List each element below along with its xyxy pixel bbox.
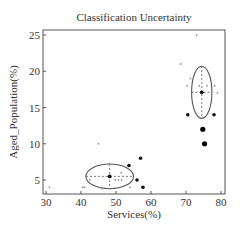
- data-point: [200, 127, 205, 132]
- data-point: [190, 78, 192, 80]
- x-tick-label: 70: [181, 196, 193, 208]
- y-tick-label: 10: [29, 138, 41, 150]
- data-point: [121, 179, 123, 181]
- data-point: [98, 143, 100, 145]
- data-point: [84, 186, 86, 188]
- data-point: [120, 172, 122, 174]
- x-tick-label: 80: [216, 196, 228, 208]
- data-point: [186, 85, 188, 87]
- data-point: [139, 156, 143, 160]
- y-tick-label: 25: [29, 29, 41, 41]
- data-point: [186, 113, 190, 117]
- data-point: [202, 141, 207, 146]
- data-point: [135, 178, 139, 182]
- x-tick-label: 30: [41, 196, 53, 208]
- data-point: [214, 85, 216, 87]
- y-tick-label: 5: [35, 174, 41, 186]
- data-point: [141, 185, 145, 189]
- data-point: [101, 188, 103, 190]
- data-point: [108, 174, 112, 178]
- plot-area: [43, 30, 225, 194]
- data-point: [49, 186, 51, 188]
- x-tick-label: 60: [146, 196, 158, 208]
- x-tick-label: 40: [76, 196, 88, 208]
- data-point: [212, 113, 216, 117]
- data-point: [129, 186, 131, 188]
- data-point: [198, 85, 200, 87]
- x-axis-label: Services(%): [107, 208, 161, 221]
- data-point: [127, 164, 131, 168]
- data-point: [82, 186, 84, 188]
- data-point: [180, 63, 182, 65]
- chart-title: Classification Uncertainty: [76, 11, 192, 23]
- y-tick-label: 15: [29, 102, 41, 114]
- x-tick-label: 50: [111, 196, 123, 208]
- data-point: [200, 90, 204, 94]
- y-tick-label: 20: [29, 65, 41, 77]
- data-point: [217, 92, 219, 94]
- data-point: [206, 85, 208, 87]
- scatter-chart: Classification Uncertainty 304050607080 …: [0, 0, 244, 237]
- y-axis-label: Aged_Population(%): [7, 65, 20, 159]
- data-point: [118, 179, 120, 181]
- data-point: [114, 179, 116, 181]
- data-point: [196, 34, 198, 36]
- data-point: [89, 179, 91, 181]
- data-point: [88, 170, 90, 172]
